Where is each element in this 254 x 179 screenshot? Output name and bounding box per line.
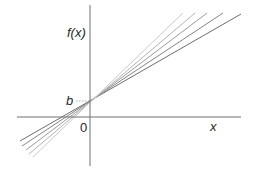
function-line <box>33 13 183 157</box>
y-axis-label: f(x) <box>67 26 86 39</box>
function-line <box>29 13 195 154</box>
function-line <box>22 13 223 146</box>
intercept-label: b <box>66 94 73 107</box>
linear-functions-diagram: f(x) b 0 x <box>0 0 254 179</box>
function-line <box>20 14 241 141</box>
function-line <box>26 13 207 150</box>
origin-label: 0 <box>80 121 87 134</box>
plot-area <box>0 0 254 179</box>
x-axis-label: x <box>210 120 217 133</box>
family-of-lines <box>20 13 241 157</box>
